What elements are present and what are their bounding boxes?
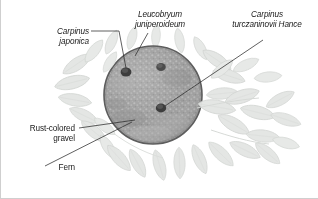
point-carpinus-turczaninovii (156, 104, 166, 113)
point-carpinus-japonica (121, 67, 132, 76)
moss-ball (104, 46, 202, 144)
botanical-illustration-figure: Carpinus japonica Leucobryum juniperoide… (0, 0, 318, 199)
label-rust-colored-gravel: Rust-colored gravel (3, 124, 75, 145)
label-fern: Fern (3, 163, 75, 173)
point-leucobryum (156, 63, 166, 71)
label-carpinus-turczaninovii-hance: Carpinus turczaninovii Hance (219, 10, 315, 31)
label-leucobryum-juniperoideum: Leucobryum juniperoideum (117, 10, 203, 31)
label-carpinus-japonica: Carpinus japonica (17, 27, 89, 48)
